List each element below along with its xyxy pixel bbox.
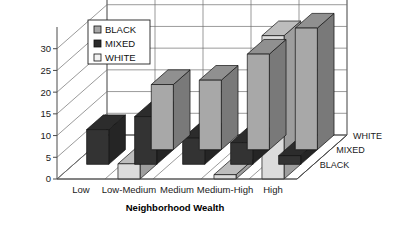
depth-axis-label-white: WHITE <box>353 131 382 141</box>
depth-axis-label-mixed: MIXED <box>336 145 365 155</box>
y-axis-tick-label: 10 <box>40 130 51 141</box>
y-axis-tick-label: 30 <box>40 43 51 54</box>
y-axis-tick-label: 5 <box>46 152 51 163</box>
bar-black-high <box>295 13 334 149</box>
x-axis-category-labels: LowLow-MediumMediumMedium-HighHigh <box>72 184 282 195</box>
bar-black-medium <box>199 66 238 150</box>
legend-swatch-black <box>94 26 101 33</box>
y-axis-tick-label: 25 <box>40 65 51 76</box>
x-axis-category-label: High <box>263 184 283 195</box>
x-axis-category-label: Low <box>72 184 90 195</box>
x-axis-category-label: Medium <box>160 184 194 195</box>
chart-legend: BLACKMIXEDWHITE <box>88 20 150 64</box>
bar-black-medium-high <box>247 39 286 149</box>
legend-swatch-white <box>94 54 101 61</box>
x-axis-category-label: Low-Medium <box>102 184 156 195</box>
bar-mixed-low <box>87 115 126 164</box>
chart-container: 051015202530 LowLow-MediumMediumMedium-H… <box>0 0 407 226</box>
y-axis-tick-label: 0 <box>46 173 51 184</box>
legend-label-black: BLACK <box>105 24 137 35</box>
depth-axis-label-black: BLACK <box>320 160 350 170</box>
legend-label-white: WHITE <box>105 52 136 63</box>
y-axis-tick-label: 20 <box>40 87 51 98</box>
bar-black-low-medium <box>151 70 190 150</box>
x-axis-title: Neighborhood Wealth <box>126 202 225 213</box>
legend-label-mixed: MIXED <box>105 38 135 49</box>
bar-chart-svg: 051015202530 LowLow-MediumMediumMedium-H… <box>0 0 407 226</box>
y-axis-ticks: 051015202530 <box>40 43 57 184</box>
x-axis-category-label: Medium-High <box>197 184 254 195</box>
legend-swatch-mixed <box>94 40 101 47</box>
y-axis-tick-label: 15 <box>40 108 51 119</box>
